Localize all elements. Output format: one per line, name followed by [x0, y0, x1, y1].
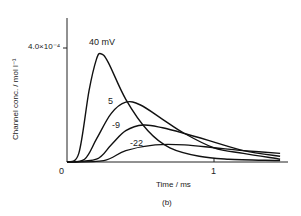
curves [67, 54, 280, 162]
series-label-minus9: -9 [112, 121, 120, 130]
series-label-40mv: 40 mV [89, 38, 115, 47]
chart-svg [0, 0, 301, 216]
y-axis-label: Channel conc. / mol l⁻¹ [12, 59, 20, 140]
y-tick-label: 4.0×10⁻⁴ [28, 43, 60, 51]
x-tick-label-0: 0 [59, 167, 64, 176]
series-curve-2 [67, 125, 280, 162]
series-label-minus22: -22 [130, 139, 143, 148]
x-tick-label-1: 1 [211, 167, 216, 176]
series-label-5: 5 [108, 97, 113, 106]
x-axis-label: Time / ms [156, 181, 191, 189]
panel-label: (b) [162, 199, 172, 207]
series-curve-0 [67, 54, 280, 162]
series-curve-1 [67, 102, 280, 162]
